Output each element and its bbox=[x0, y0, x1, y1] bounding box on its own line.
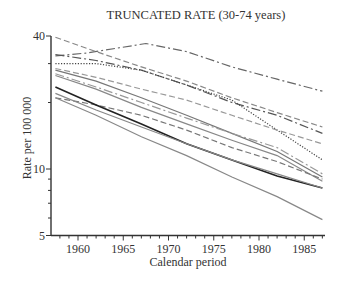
x-tick-label: 1970 bbox=[157, 242, 181, 256]
x-tick-label: 1960 bbox=[66, 242, 90, 256]
x-tick-label: 1985 bbox=[292, 242, 316, 256]
x-tick-label: 1980 bbox=[247, 242, 271, 256]
y-tick-label: 5 bbox=[39, 229, 45, 243]
series-line-10 bbox=[55, 87, 322, 188]
series-line-3 bbox=[55, 55, 322, 134]
series-layer bbox=[55, 37, 322, 219]
x-axis-label: Calendar period bbox=[150, 255, 227, 269]
y-tick-label: 40 bbox=[33, 29, 45, 43]
y-tick-label: 10 bbox=[33, 162, 45, 176]
x-tick-label: 1975 bbox=[202, 242, 226, 256]
x-tick-label: 1965 bbox=[111, 242, 135, 256]
series-line-11 bbox=[55, 93, 322, 188]
series-line-2 bbox=[55, 37, 322, 127]
series-line-1 bbox=[55, 44, 322, 92]
y-axis: 51040 bbox=[33, 29, 51, 243]
series-line-5 bbox=[55, 69, 322, 144]
truncated-rate-chart: TRUNCATED RATE (30-74 years) 51040 19601… bbox=[0, 0, 343, 291]
x-axis: 196019651970197519801985 bbox=[51, 236, 325, 256]
series-line-8 bbox=[55, 76, 322, 182]
chart-title: TRUNCATED RATE (30-74 years) bbox=[107, 8, 286, 22]
y-axis-label: Rate per 100 000 bbox=[20, 97, 34, 179]
